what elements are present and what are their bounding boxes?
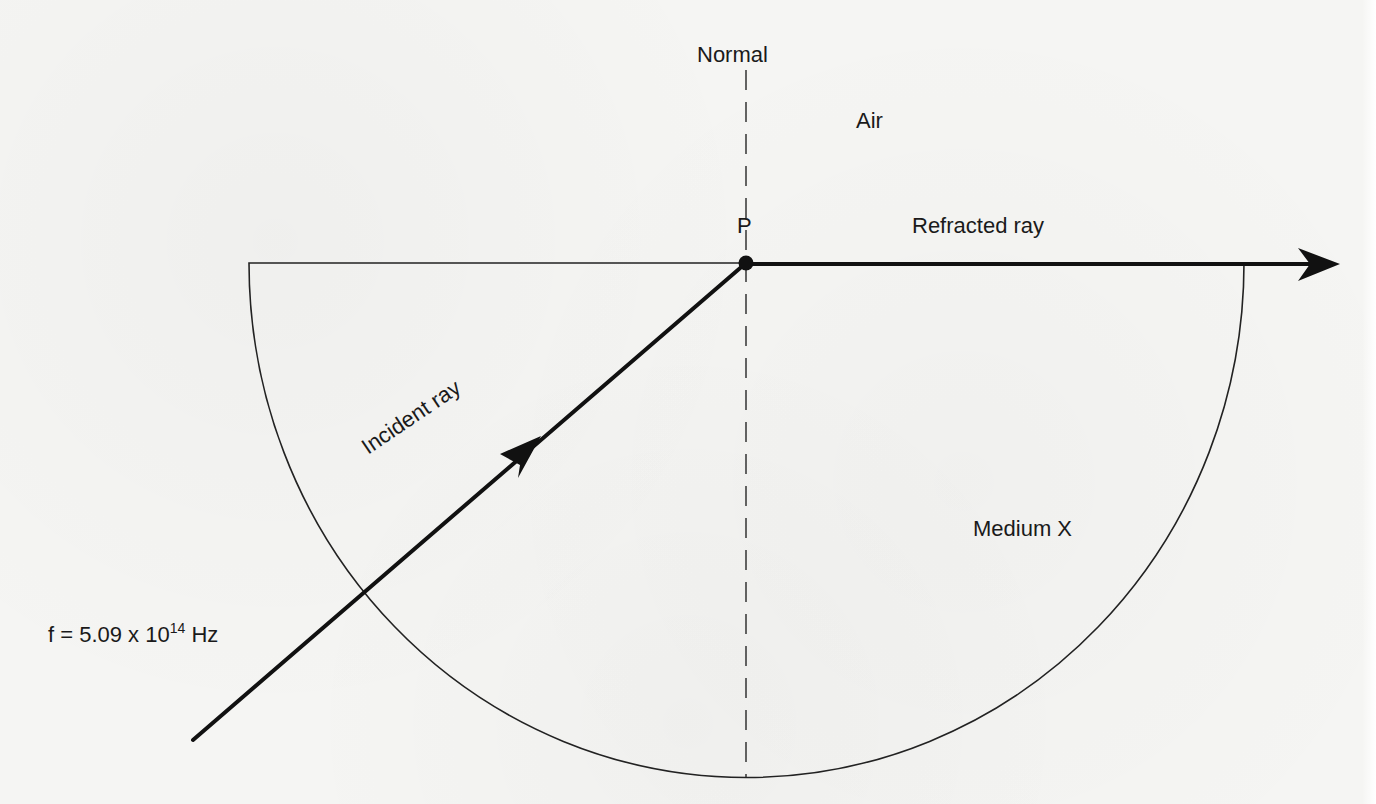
- medium-x-label: Medium X: [973, 518, 1072, 540]
- normal-label: Normal: [697, 44, 768, 66]
- scan-edge: [1362, 0, 1376, 804]
- frequency-exponent: 14: [170, 620, 186, 636]
- incident-ray-line: [193, 263, 746, 740]
- frequency-prefix: f = 5.09 x 10: [48, 622, 170, 647]
- refracted-ray-label: Refracted ray: [912, 215, 1044, 237]
- refraction-diagram: [0, 0, 1376, 804]
- frequency-unit: Hz: [185, 622, 218, 647]
- point-p-marker: [739, 256, 754, 271]
- point-p-label: P: [737, 215, 752, 237]
- frequency-label: f = 5.09 x 1014 Hz: [48, 624, 218, 646]
- air-label: Air: [856, 110, 883, 132]
